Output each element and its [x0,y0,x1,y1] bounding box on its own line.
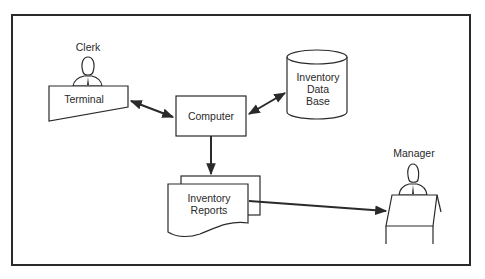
inventory-diagram: Clerk Terminal Computer Inventory Data B… [0,0,485,279]
database-label-line3: Base [306,95,330,107]
terminal-label: Terminal [64,93,104,105]
clerk-label: Clerk [76,41,101,53]
manager-label: Manager [393,147,435,159]
reports-manager-arrow [249,201,386,211]
database-label-line1: Inventory [296,71,340,83]
manager-podium-icon [386,195,441,244]
terminal-computer-arrow [131,101,173,117]
reports-label-line1: Inventory [187,192,231,204]
manager-person-icon [399,164,427,195]
reports-label-line2: Reports [191,204,228,216]
clerk-person-icon [73,57,102,86]
computer-label: Computer [188,110,235,122]
computer-database-arrow [249,93,285,114]
database-label-line2: Data [307,83,329,95]
